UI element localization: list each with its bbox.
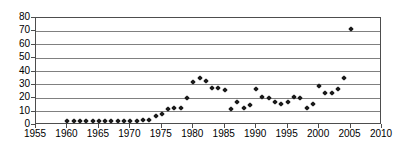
data-point	[285, 99, 291, 105]
y-tick-label: 30	[2, 79, 30, 89]
data-point	[323, 90, 329, 96]
data-point	[65, 118, 71, 124]
data-point	[121, 118, 127, 124]
gridline	[36, 44, 380, 45]
data-point	[222, 87, 228, 93]
data-point	[71, 118, 77, 124]
x-tick-label: 1965	[81, 128, 115, 139]
data-point	[184, 95, 190, 101]
data-point	[234, 99, 240, 105]
x-tick-mark	[98, 124, 99, 128]
x-tick-mark	[129, 124, 130, 128]
x-tick-label: 1995	[270, 128, 304, 139]
x-tick-mark	[350, 124, 351, 128]
data-point	[266, 95, 272, 101]
gridline	[36, 111, 380, 112]
data-point	[178, 105, 184, 111]
gridline	[36, 98, 380, 99]
data-point	[96, 118, 102, 124]
data-point	[203, 78, 209, 84]
data-point	[310, 101, 316, 107]
data-point	[241, 105, 247, 111]
data-point	[341, 75, 347, 81]
x-tick-label: 2000	[301, 128, 335, 139]
x-tick-label: 1980	[175, 128, 209, 139]
x-tick-label: 2005	[333, 128, 367, 139]
x-tick-mark	[66, 124, 67, 128]
data-point	[153, 113, 159, 119]
data-point	[102, 118, 108, 124]
gridline	[36, 71, 380, 72]
x-tick-label: 1975	[144, 128, 178, 139]
data-point	[172, 105, 178, 111]
x-tick-label: 1985	[207, 128, 241, 139]
x-tick-label: 1955	[18, 128, 52, 139]
plot-area	[35, 17, 381, 124]
gridline	[36, 31, 380, 32]
data-point	[316, 83, 322, 89]
x-tick-label: 1960	[49, 128, 83, 139]
x-tick-mark	[192, 124, 193, 128]
data-point	[146, 117, 152, 123]
data-point	[115, 118, 121, 124]
x-tick-mark	[318, 124, 319, 128]
data-point	[272, 99, 278, 105]
x-tick-label: 1970	[112, 128, 146, 139]
data-point	[134, 118, 140, 124]
data-point	[329, 90, 335, 96]
data-point	[279, 101, 285, 107]
data-point	[197, 75, 203, 81]
x-tick-mark	[287, 124, 288, 128]
data-point	[247, 102, 253, 108]
gridline	[36, 84, 380, 85]
gridline	[36, 58, 380, 59]
y-tick-label: 50	[2, 52, 30, 62]
y-tick-label: 70	[2, 25, 30, 35]
data-point	[159, 111, 165, 117]
data-point	[304, 105, 310, 111]
x-tick-mark	[224, 124, 225, 128]
x-tick-mark	[255, 124, 256, 128]
data-point	[128, 118, 134, 124]
x-tick-label: 2010	[364, 128, 398, 139]
data-point	[140, 117, 146, 123]
data-point	[90, 118, 96, 124]
data-point	[260, 94, 266, 100]
data-point	[216, 85, 222, 91]
data-point	[297, 95, 303, 101]
y-tick-label: 80	[2, 12, 30, 22]
x-tick-label: 1990	[238, 128, 272, 139]
x-tick-mark	[161, 124, 162, 128]
data-point	[335, 86, 341, 92]
y-tick-label: 20	[2, 92, 30, 102]
x-tick-mark	[381, 124, 382, 128]
y-tick-label: 60	[2, 39, 30, 49]
data-point	[77, 118, 83, 124]
scatter-chart: 01020304050607080 1955196019651970197519…	[0, 0, 405, 155]
data-point	[109, 118, 115, 124]
y-tick-label: 40	[2, 66, 30, 76]
y-tick-label: 10	[2, 106, 30, 116]
data-point	[83, 118, 89, 124]
data-point	[291, 94, 297, 100]
data-point	[253, 86, 259, 92]
x-tick-mark	[35, 124, 36, 128]
